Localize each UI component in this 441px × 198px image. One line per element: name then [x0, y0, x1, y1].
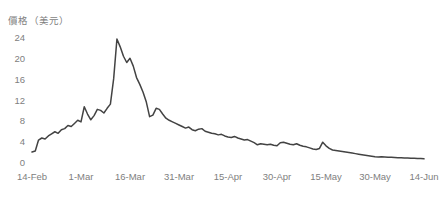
price-series-line: [32, 39, 424, 159]
price-line-chart: 價格（美元） 04812162024 14-Feb1-Mar16-Mar31-M…: [0, 0, 441, 198]
plot-area: [0, 0, 441, 198]
